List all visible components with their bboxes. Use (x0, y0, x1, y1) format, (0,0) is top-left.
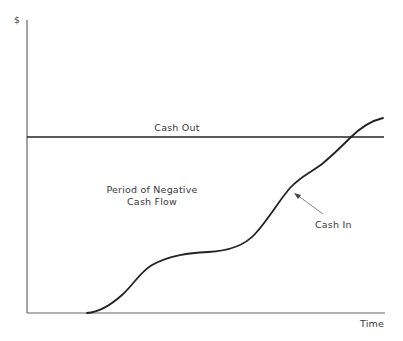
cash-flow-diagram (0, 0, 403, 341)
negative-cash-flow-label-line1: Period of Negative (106, 184, 197, 196)
x-axis-label: Time (360, 318, 384, 329)
cash-in-label: Cash In (315, 219, 352, 230)
y-axis-label: $ (14, 15, 20, 25)
cash-in-pointer-line (297, 195, 323, 214)
cash-out-label: Cash Out (154, 122, 199, 133)
negative-cash-flow-label-line2: Cash Flow (106, 196, 197, 208)
arrowhead-icon (294, 193, 301, 199)
negative-cash-flow-label: Period of Negative Cash Flow (106, 184, 197, 208)
cash-in-curve (87, 118, 383, 313)
